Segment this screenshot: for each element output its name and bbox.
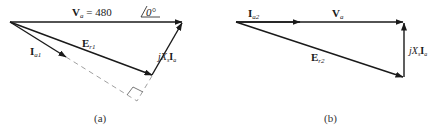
ia2-label: Ia2 — [248, 7, 260, 21]
er1-label: Er1 — [82, 37, 96, 51]
er2-arrow — [236, 22, 403, 77]
diagram-b: Ia2 Va Er2 jXsIa (b) — [236, 7, 427, 125]
va-angle: 0° — [146, 6, 157, 18]
jxsia-arrow — [152, 23, 182, 75]
perpendicular-dashed — [137, 76, 152, 101]
jxsia-label-b: jXsIa — [407, 45, 427, 57]
va-label-b: Va — [332, 7, 344, 21]
phasor-diagrams: Va = 480 0° Ia1 Er1 jXsIa (a) Ia2 Va — [0, 0, 440, 131]
jxsia-label-a: jXsIa — [156, 51, 176, 63]
caption-b: (b) — [324, 112, 337, 125]
va-label-a: Va = 480 — [72, 6, 112, 20]
ia1-dashed-extension — [66, 57, 137, 101]
er2-label: Er2 — [311, 51, 325, 65]
diagram-a: Va = 480 0° Ia1 Er1 jXsIa (a) — [10, 6, 182, 125]
caption-a: (a) — [94, 112, 107, 125]
right-angle-marker — [127, 87, 143, 95]
ia1-label: Ia1 — [30, 45, 41, 59]
